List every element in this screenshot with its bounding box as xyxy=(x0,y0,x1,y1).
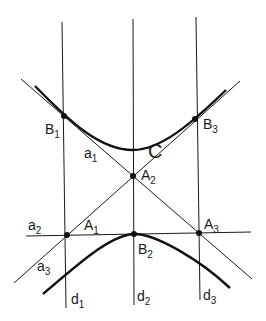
point-b3 xyxy=(192,116,198,122)
line-a3 xyxy=(14,81,240,283)
label-b3: B3 xyxy=(203,116,218,135)
point-b2 xyxy=(131,231,137,237)
curve-c-lower xyxy=(43,234,230,294)
line-d1 xyxy=(62,22,66,308)
label-line-a3: a3 xyxy=(37,258,51,277)
label-b2: B2 xyxy=(138,241,153,260)
label-line-d2: d2 xyxy=(137,288,151,307)
hyperbola-tangent-diagram: C B1 B3 A2 A1 B2 A3 a1 a2 a3 d1 d2 d3 xyxy=(0,0,266,321)
line-d3 xyxy=(196,17,200,300)
label-line-a2: a2 xyxy=(28,217,42,236)
point-a2 xyxy=(130,173,136,179)
label-line-d1: d1 xyxy=(71,291,85,310)
point-b1 xyxy=(61,113,67,119)
curve-label-c: C xyxy=(148,140,162,162)
line-a1 xyxy=(21,79,252,279)
point-a1 xyxy=(64,232,70,238)
label-a3: A3 xyxy=(204,216,219,235)
label-line-d3: d3 xyxy=(203,287,217,306)
label-line-a1: a1 xyxy=(84,145,98,164)
label-b1: B1 xyxy=(45,121,60,140)
label-a2: A2 xyxy=(141,167,156,186)
line-d2 xyxy=(133,19,134,305)
point-a3 xyxy=(196,230,202,236)
label-a1: A1 xyxy=(84,217,99,236)
